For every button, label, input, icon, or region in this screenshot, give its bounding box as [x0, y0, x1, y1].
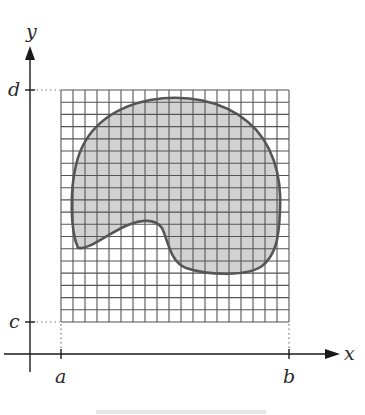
tick-label-c: c	[9, 310, 20, 332]
y-axis-arrow-icon	[25, 46, 35, 60]
x-axis-arrow-icon	[325, 349, 340, 359]
cropped-caption	[96, 410, 266, 414]
tick-label-a: a	[55, 365, 66, 387]
tick-label-d: d	[8, 78, 20, 100]
x-axis-label: x	[344, 342, 355, 364]
tick-label-b: b	[283, 365, 295, 387]
double-integral-region-diagram: y x d c a b	[0, 0, 365, 415]
y-axis-label: y	[25, 20, 37, 42]
